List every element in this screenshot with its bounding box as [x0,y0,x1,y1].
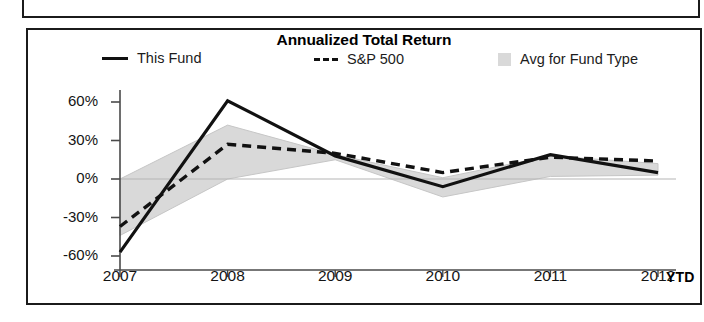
x-axis-tick-label: 2008 [210,267,244,285]
y-axis-labels: 60%30%0%-30%-60% [36,30,98,305]
x-axis-labels: 200720082009201020112012 [28,267,702,297]
y-axis-tick-label: 30% [36,131,98,148]
x-axis-tick-label: 2007 [103,267,137,285]
x-axis-tick-label: 2010 [426,267,460,285]
x-axis-tick-label: 2009 [318,267,352,285]
top-partial-box [22,0,700,18]
avg-fund-type-band [120,125,658,235]
y-axis-tick-label: 60% [36,92,98,109]
x-axis-tick-label: 2011 [534,267,567,285]
plot-area [28,30,702,305]
line-chart-svg [28,30,702,305]
y-axis-tick-label: 0% [36,169,98,186]
y-axis-tick-label: -60% [36,246,98,263]
y-axis-tick-label: -30% [36,208,98,225]
annualized-total-return-panel: Annualized Total Return This Fund S&P 50… [26,28,702,305]
x-axis-ytd-label: YTD [666,269,695,285]
